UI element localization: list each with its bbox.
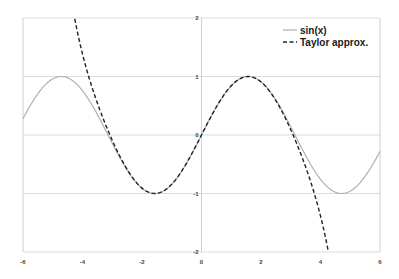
x-tick-label: -2 bbox=[139, 259, 145, 265]
chart-canvas: -6-4-20246-2-1012 sin(x) Taylor approx. bbox=[0, 0, 399, 279]
y-tick-label: -1 bbox=[193, 191, 199, 197]
legend-label-taylor: Taylor approx. bbox=[300, 37, 368, 48]
x-tick-label: 2 bbox=[259, 259, 263, 265]
y-tick-label: -2 bbox=[193, 249, 199, 255]
legend-label-sin: sin(x) bbox=[300, 25, 327, 36]
legend: sin(x) Taylor approx. bbox=[283, 25, 368, 48]
x-tick-label: -6 bbox=[20, 259, 26, 265]
x-tick-label: -4 bbox=[80, 259, 86, 265]
x-tick-label: 6 bbox=[378, 259, 382, 265]
x-tick-label: 0 bbox=[200, 259, 204, 265]
x-tick-label: 4 bbox=[319, 259, 323, 265]
